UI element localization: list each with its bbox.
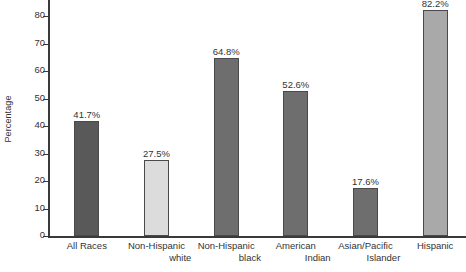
bar-value-label: 52.6%: [282, 79, 309, 90]
bar-value-label: 64.8%: [213, 46, 240, 57]
bar: 27.5%: [144, 160, 169, 236]
y-axis-tick-label: 0: [40, 229, 45, 240]
y-axis-tick-label: 20: [34, 174, 45, 185]
x-axis-category-label: Non-Hispanicwhite: [122, 240, 192, 263]
y-axis-tick-label: 40: [34, 119, 45, 130]
y-axis-tick-label: 60: [34, 64, 45, 75]
y-axis-tick-label: 70: [34, 37, 45, 48]
y-axis-title: Percentage: [0, 0, 16, 238]
bar: 41.7%: [74, 121, 99, 236]
category-label-line1: American: [276, 240, 316, 251]
y-axis-title-label: Percentage: [3, 95, 13, 142]
bar-value-label: 17.6%: [352, 176, 379, 187]
bar-value-label: 27.5%: [143, 148, 170, 159]
bar-value-label: 82.2%: [422, 0, 449, 9]
category-label-line2: black: [191, 252, 261, 264]
bar-value-label: 41.7%: [73, 109, 100, 120]
bar: 52.6%: [283, 91, 308, 236]
y-axis-tick-label: 80: [34, 9, 45, 20]
category-label-line1: Non-Hispanic: [198, 240, 255, 251]
x-axis-category-label: All Races: [52, 240, 122, 252]
x-axis-category-labels: All RacesNon-HispanicwhiteNon-Hispanicbl…: [48, 240, 466, 272]
y-axis-line: [48, 0, 50, 238]
category-label-line2: Islander: [331, 252, 401, 264]
y-axis-tick-label: 50: [34, 92, 45, 103]
bar: 82.2%: [423, 10, 448, 236]
bar: 64.8%: [214, 58, 239, 236]
bar-chart-figure: Percentage 01020304050607080 41.7%27.5%6…: [0, 0, 466, 272]
x-axis-category-label: Hispanic: [400, 240, 466, 252]
y-axis-tick-label: 10: [34, 202, 45, 213]
x-axis-category-label: AmericanIndian: [261, 240, 331, 263]
category-label-line1: Hispanic: [417, 240, 453, 251]
category-label-line1: Asian/Pacific: [338, 240, 392, 251]
x-axis-category-label: Asian/PacificIslander: [331, 240, 401, 263]
x-axis-line: [48, 236, 466, 238]
category-label-line2: Indian: [261, 252, 331, 264]
x-axis-category-label: Non-Hispanicblack: [191, 240, 261, 263]
category-label-line1: All Races: [67, 240, 107, 251]
plot-area: 01020304050607080 41.7%27.5%64.8%52.6%17…: [48, 0, 466, 238]
category-label-line2: white: [122, 252, 192, 264]
category-label-line1: Non-Hispanic: [128, 240, 185, 251]
bar: 17.6%: [353, 188, 378, 236]
y-axis-tick-label: 30: [34, 147, 45, 158]
